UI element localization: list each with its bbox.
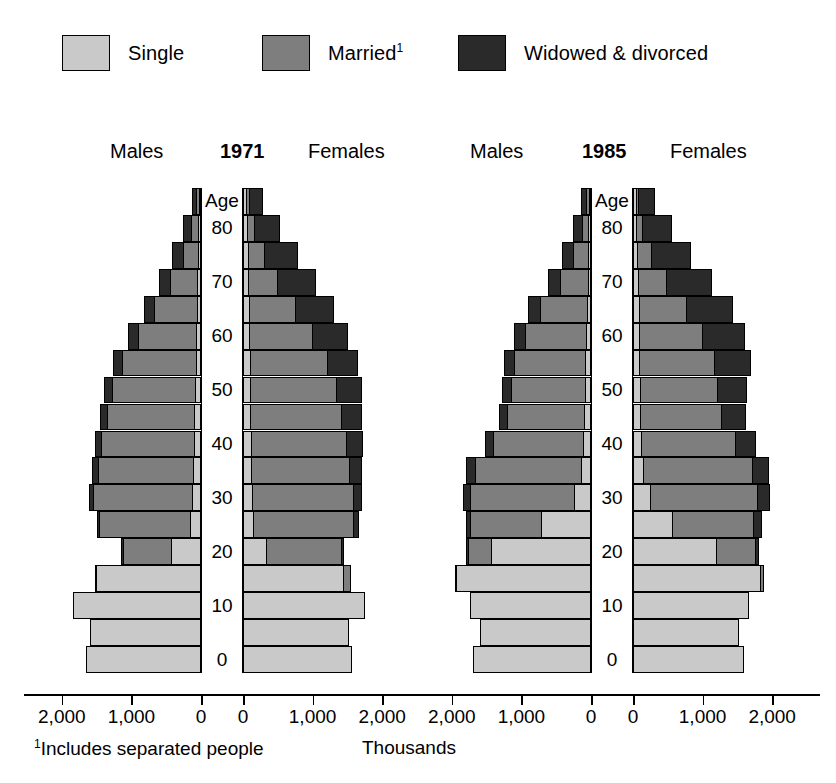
bar-segment-widowed [183, 215, 192, 242]
pyramid-bar-row [34, 404, 201, 431]
bar-segment-single [491, 538, 591, 565]
pyramid-bar-row [424, 215, 591, 242]
axis-footnote: 1Includes separated people [34, 737, 264, 760]
bar-segment-widowed [466, 457, 475, 484]
bar-segment-widowed [752, 457, 769, 484]
pyramid-bar-row [424, 511, 591, 538]
bar-segment-widowed [686, 296, 733, 323]
bar-segment-widowed [192, 188, 198, 215]
age-tick-label-80: 80 [592, 217, 632, 239]
legend-footnote-marker: 1 [397, 41, 404, 55]
pyramid-bar-row [34, 350, 201, 377]
bar-segment-married [525, 323, 588, 350]
pyramid-bar-row [633, 538, 800, 565]
pyramid-side-males-1971 [34, 188, 201, 673]
x-axis-line [24, 694, 820, 696]
pyramid-bar-row [34, 646, 201, 673]
bar-segment-single [473, 646, 591, 673]
bar-segment-married [643, 457, 753, 484]
age-tick-label-20: 20 [592, 541, 632, 563]
bar-segment-married [540, 296, 588, 323]
pyramid-bar-row [633, 511, 800, 538]
legend-swatch-single [62, 35, 110, 71]
pyramid-bar-row [34, 511, 201, 538]
bar-segment-widowed [573, 215, 583, 242]
bar-segment-widowed [714, 350, 751, 377]
pyramid-bar-row [34, 457, 201, 484]
bar-segment-single [633, 511, 673, 538]
bar-segment-married [170, 269, 199, 296]
pyramid-bar-row [34, 377, 201, 404]
bar-segment-married [122, 350, 197, 377]
bar-segment-married [639, 296, 688, 323]
pyramid-side-males-1985 [424, 188, 591, 673]
panel-males-label-1985: Males [470, 140, 523, 163]
bar-segment-married [641, 431, 736, 458]
bar-segment-married [249, 296, 296, 323]
bar-segment-married [250, 404, 342, 431]
legend-item-widowed: Widowed & divorced [458, 30, 708, 76]
pyramid-bar-row [424, 484, 591, 511]
pyramid-bar-row [424, 188, 591, 215]
bar-segment-married [251, 457, 351, 484]
bar-segment-married [248, 269, 279, 296]
bar-segment-widowed [504, 350, 515, 377]
bar-segment-married [559, 269, 588, 296]
x-tick [703, 696, 705, 705]
bar-segment-widowed [349, 457, 362, 484]
pyramid-bar-row [243, 511, 410, 538]
x-tick [633, 696, 635, 705]
bar-segment-single [633, 484, 652, 511]
bar-segment-single [243, 592, 365, 619]
pyramid-bar-row [243, 646, 410, 673]
bar-segment-single [455, 565, 591, 592]
bar-segment-widowed [104, 377, 113, 404]
age-axis-caption: Age [202, 190, 242, 212]
pyramid-bar-row [243, 269, 410, 296]
bar-segment-single [96, 565, 201, 592]
age-tick-label-30: 30 [202, 487, 242, 509]
bar-segment-married [760, 565, 765, 592]
panel-females-label-1971: Females [308, 140, 385, 163]
legend-label-single: Single [128, 42, 184, 65]
pyramid-bar-row [243, 215, 410, 242]
pyramid-bar-row [243, 377, 410, 404]
bar-segment-single [541, 511, 591, 538]
bar-segment-married [650, 484, 758, 511]
bar-segment-married [470, 511, 542, 538]
pyramid-bar-row [633, 646, 800, 673]
bar-segment-married [640, 377, 719, 404]
x-tick [243, 696, 245, 705]
pyramid-bar-row [424, 538, 591, 565]
pyramid-bar-row [243, 431, 410, 458]
pyramid-bar-row [34, 484, 201, 511]
bar-segment-married [182, 242, 199, 269]
x-tick-label: 1,000 [108, 706, 156, 728]
pyramid-bar-row [424, 404, 591, 431]
pyramid-side-females-1971 [243, 188, 410, 673]
pyramid-bar-row [633, 377, 800, 404]
bar-segment-married [97, 457, 194, 484]
pyramid-bar-row [424, 646, 591, 673]
pyramid-bar-row [633, 188, 800, 215]
legend-swatch-married [262, 35, 310, 71]
bar-segment-single [633, 619, 739, 646]
bar-segment-married [106, 404, 195, 431]
bar-segment-married [93, 484, 193, 511]
pyramid-bar-row [243, 188, 410, 215]
legend-swatch-widowed [458, 35, 506, 71]
pyramid-side-females-1985 [633, 188, 800, 673]
footnote-marker: 1 [34, 737, 41, 751]
bar-segment-single [480, 619, 591, 646]
pyramid-bar-row [424, 269, 591, 296]
pyramid-bar-row [34, 242, 201, 269]
pyramid-bar-row [424, 296, 591, 323]
bar-segment-widowed [327, 350, 358, 377]
panel-header-1971: Males 1971 Females [34, 140, 410, 174]
x-tick-label: 0 [628, 706, 639, 728]
bar-segment-widowed [336, 377, 362, 404]
age-tick-label-40: 40 [592, 433, 632, 455]
pyramid-bar-row [34, 431, 201, 458]
bar-segment-married [252, 484, 354, 511]
pyramid-bar-row [633, 269, 800, 296]
